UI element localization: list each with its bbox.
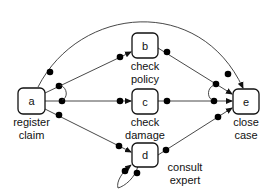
binding-dot xyxy=(122,168,129,175)
node-letter: c xyxy=(142,96,148,108)
binding-dot xyxy=(116,143,123,150)
binding-dot xyxy=(164,98,171,105)
binding-dot xyxy=(56,112,63,119)
node-label-line2: case xyxy=(234,129,257,141)
node-label-line2: policy xyxy=(131,73,160,85)
node-label-line2: claim xyxy=(19,129,45,141)
binding-dot xyxy=(47,69,54,76)
binding-dot xyxy=(164,49,171,56)
node-label-line1: register xyxy=(13,116,50,128)
node-label-line2: damage xyxy=(125,129,165,141)
binding-dot xyxy=(134,170,141,177)
node-b[interactable]: b check policy xyxy=(131,33,160,85)
node-a[interactable]: a register claim xyxy=(13,88,50,141)
node-label-line2: expert xyxy=(170,174,201,186)
join-connector xyxy=(208,85,214,100)
binding-dot xyxy=(211,98,218,105)
node-c[interactable]: c check damage xyxy=(125,89,165,141)
binding-dot xyxy=(117,98,124,105)
binding-dot xyxy=(117,54,124,61)
node-label-line1: close xyxy=(233,116,259,128)
edge-d-e xyxy=(158,108,232,155)
edge-d-d xyxy=(118,165,138,188)
binding-dot xyxy=(213,81,220,88)
node-letter: d xyxy=(142,149,148,161)
node-e[interactable]: e close case xyxy=(233,89,259,141)
process-diagram: a register claim b check policy c check … xyxy=(0,0,272,196)
node-label-line1: check xyxy=(131,60,160,72)
binding-dot xyxy=(215,114,222,121)
node-letter: a xyxy=(28,95,35,107)
binding-dot xyxy=(163,147,170,154)
node-label-line1: check xyxy=(131,116,160,128)
node-letter: b xyxy=(142,40,148,52)
node-label-line1: consult xyxy=(168,161,203,173)
node-letter: e xyxy=(243,96,249,108)
binding-dot xyxy=(225,71,232,78)
